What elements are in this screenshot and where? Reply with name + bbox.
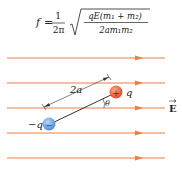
negative-charge-label: −q <box>28 119 43 130</box>
positive-charge-label: q <box>126 87 132 98</box>
formula-sqrt-denominator: 2am₁m₂ <box>98 25 133 35</box>
dipole-diagram: f = 1 2π qE(m₁ + m₂) 2am₁m₂ E 2a θ + <box>0 0 182 171</box>
plus-icon: + <box>112 88 120 98</box>
dipole-rod <box>50 94 113 124</box>
formula-lhs: f <box>35 16 42 29</box>
field-lines <box>7 56 165 161</box>
minus-icon: − <box>45 120 53 130</box>
negative-charge: − −q <box>28 118 56 131</box>
frequency-formula: f = 1 2π qE(m₁ + m₂) 2am₁m₂ <box>35 9 150 35</box>
svg-text:E: E <box>169 103 177 114</box>
formula-sqrt-numerator: qE(m₁ + m₂) <box>88 11 142 21</box>
formula-fraction-numerator: 1 <box>55 11 61 21</box>
separation-label: 2a <box>69 84 82 95</box>
positive-charge: + q <box>110 86 133 99</box>
field-label: E <box>169 100 177 115</box>
formula-fraction-denominator: 2π <box>53 25 65 35</box>
angle-label: θ <box>105 99 110 108</box>
